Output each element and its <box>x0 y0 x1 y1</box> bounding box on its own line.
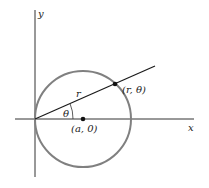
point-label: (r, θ) <box>122 84 146 95</box>
center-point <box>81 117 86 122</box>
polar-circle-diagram: y x r θ (a, 0) (r, θ) <box>0 0 209 188</box>
angle-label: θ <box>63 108 69 119</box>
diagram-canvas: y x r θ (a, 0) (r, θ) <box>0 0 209 188</box>
angle-arc <box>70 104 73 120</box>
y-axis-label: y <box>37 8 44 19</box>
polar-point <box>113 82 118 87</box>
radius-label: r <box>76 88 82 99</box>
center-label: (a, 0) <box>71 123 98 134</box>
x-axis-label: x <box>188 122 194 133</box>
